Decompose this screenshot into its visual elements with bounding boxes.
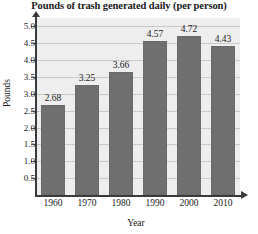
bar [143,41,167,195]
plot-area [36,18,240,195]
y-axis-ticks: 0.51.01.52.02.53.03.54.04.55.0 [0,0,35,234]
x-tick-label: 2010 [203,198,243,208]
gridline [36,161,240,162]
gridline [36,144,240,145]
bar-value-label: 4.43 [203,34,243,44]
bar [75,85,99,195]
bar-chart-figure: Pounds of trash generated daily (per per… [0,0,258,234]
chart-title: Pounds of trash generated daily (per per… [0,0,258,11]
gridline [36,26,240,27]
gridline [36,128,240,129]
x-axis-title: Year [36,218,236,228]
y-tick-label: 1.0 [3,156,35,166]
y-tick-label: 0.5 [3,173,35,183]
bar-value-label: 4.72 [169,24,209,34]
bar-value-label: 2.68 [33,93,73,103]
bar-value-label: 3.66 [101,60,141,70]
y-axis-title: Pounds [2,69,12,117]
bar [177,36,201,195]
y-tick-label: 5.0 [3,21,35,31]
y-tick-label: 4.5 [3,38,35,48]
y-tick-label: 2.0 [3,123,35,133]
bar [41,105,65,195]
x-axis-line [35,195,242,197]
y-axis-line [35,16,37,197]
y-tick-label: 4.0 [3,55,35,65]
y-tick-label: 1.5 [3,139,35,149]
bar-value-label: 3.25 [67,73,107,83]
gridline [36,111,240,112]
bar [109,72,133,195]
gridline [36,178,240,179]
bar [211,46,235,195]
